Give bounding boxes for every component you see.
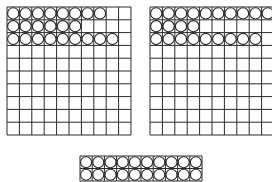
counter-circle-icon xyxy=(178,169,189,180)
counter-circle-icon xyxy=(166,169,177,180)
counter-circle-icon xyxy=(45,8,56,19)
counter-circle-icon xyxy=(188,21,199,32)
counter-circle-icon xyxy=(57,8,68,19)
counter-circle-icon xyxy=(20,21,31,32)
counter-circle-icon xyxy=(129,169,140,180)
counter-circle-icon xyxy=(154,157,165,168)
counter-circle-icon xyxy=(57,33,68,44)
counter-circle-icon xyxy=(163,8,174,19)
counter-circle-icon xyxy=(20,33,31,44)
counter-circle-icon xyxy=(175,8,186,19)
counter-circle-icon xyxy=(190,157,201,168)
counter-circle-icon xyxy=(45,33,56,44)
counter-circle-icon xyxy=(250,33,261,44)
bottom-twenty-strip xyxy=(79,155,203,182)
counter-circle-icon xyxy=(93,157,104,168)
counter-circle-icon xyxy=(32,8,43,19)
counter-circle-icon xyxy=(178,157,189,168)
counter-circle-icon xyxy=(94,33,105,44)
counter-circle-icon xyxy=(117,169,128,180)
counter-circle-icon xyxy=(105,169,116,180)
counter-circle-icon xyxy=(93,169,104,180)
counter-circle-icon xyxy=(82,8,93,19)
counter-circle-icon xyxy=(70,33,81,44)
counter-circle-icon xyxy=(32,21,43,32)
counter-circle-icon xyxy=(82,33,93,44)
counter-circle-icon xyxy=(200,8,211,19)
counter-circle-icon xyxy=(166,157,177,168)
counter-circle-icon xyxy=(188,33,199,44)
counter-circle-icon xyxy=(117,157,128,168)
counter-circle-icon xyxy=(70,21,81,32)
counter-circle-icon xyxy=(81,157,92,168)
right-hundred-grid xyxy=(149,6,272,136)
counter-circle-icon xyxy=(81,169,92,180)
counter-circle-icon xyxy=(237,33,248,44)
counter-circle-icon xyxy=(188,8,199,19)
left-hundred-grid xyxy=(6,6,132,136)
counter-circle-icon xyxy=(225,33,236,44)
counter-circle-icon xyxy=(213,8,224,19)
counter-circle-icon xyxy=(190,169,201,180)
counter-circle-icon xyxy=(175,33,186,44)
counter-circle-icon xyxy=(142,157,153,168)
counter-circle-icon xyxy=(8,33,19,44)
counter-circle-icon xyxy=(142,169,153,180)
counter-circle-icon xyxy=(175,21,186,32)
counter-circle-icon xyxy=(151,33,162,44)
counter-circle-icon xyxy=(154,169,165,180)
counter-circle-icon xyxy=(151,21,162,32)
counter-circle-icon xyxy=(8,21,19,32)
counter-circle-icon xyxy=(262,8,272,19)
counter-circle-icon xyxy=(105,157,116,168)
counter-circle-icon xyxy=(107,33,118,44)
counter-circle-icon xyxy=(163,33,174,44)
counter-circle-icon xyxy=(45,21,56,32)
counter-circle-icon xyxy=(250,8,261,19)
counter-circle-icon xyxy=(94,8,105,19)
counter-circle-icon xyxy=(32,33,43,44)
counter-circle-icon xyxy=(213,33,224,44)
counter-circle-icon xyxy=(225,8,236,19)
counter-circle-icon xyxy=(151,8,162,19)
counter-circle-icon xyxy=(129,157,140,168)
counter-circle-icon xyxy=(70,8,81,19)
counter-circle-icon xyxy=(200,33,211,44)
counter-circle-icon xyxy=(8,8,19,19)
counter-circle-icon xyxy=(163,21,174,32)
counter-circle-icon xyxy=(57,21,68,32)
counter-circle-icon xyxy=(20,8,31,19)
counter-circle-icon xyxy=(237,8,248,19)
